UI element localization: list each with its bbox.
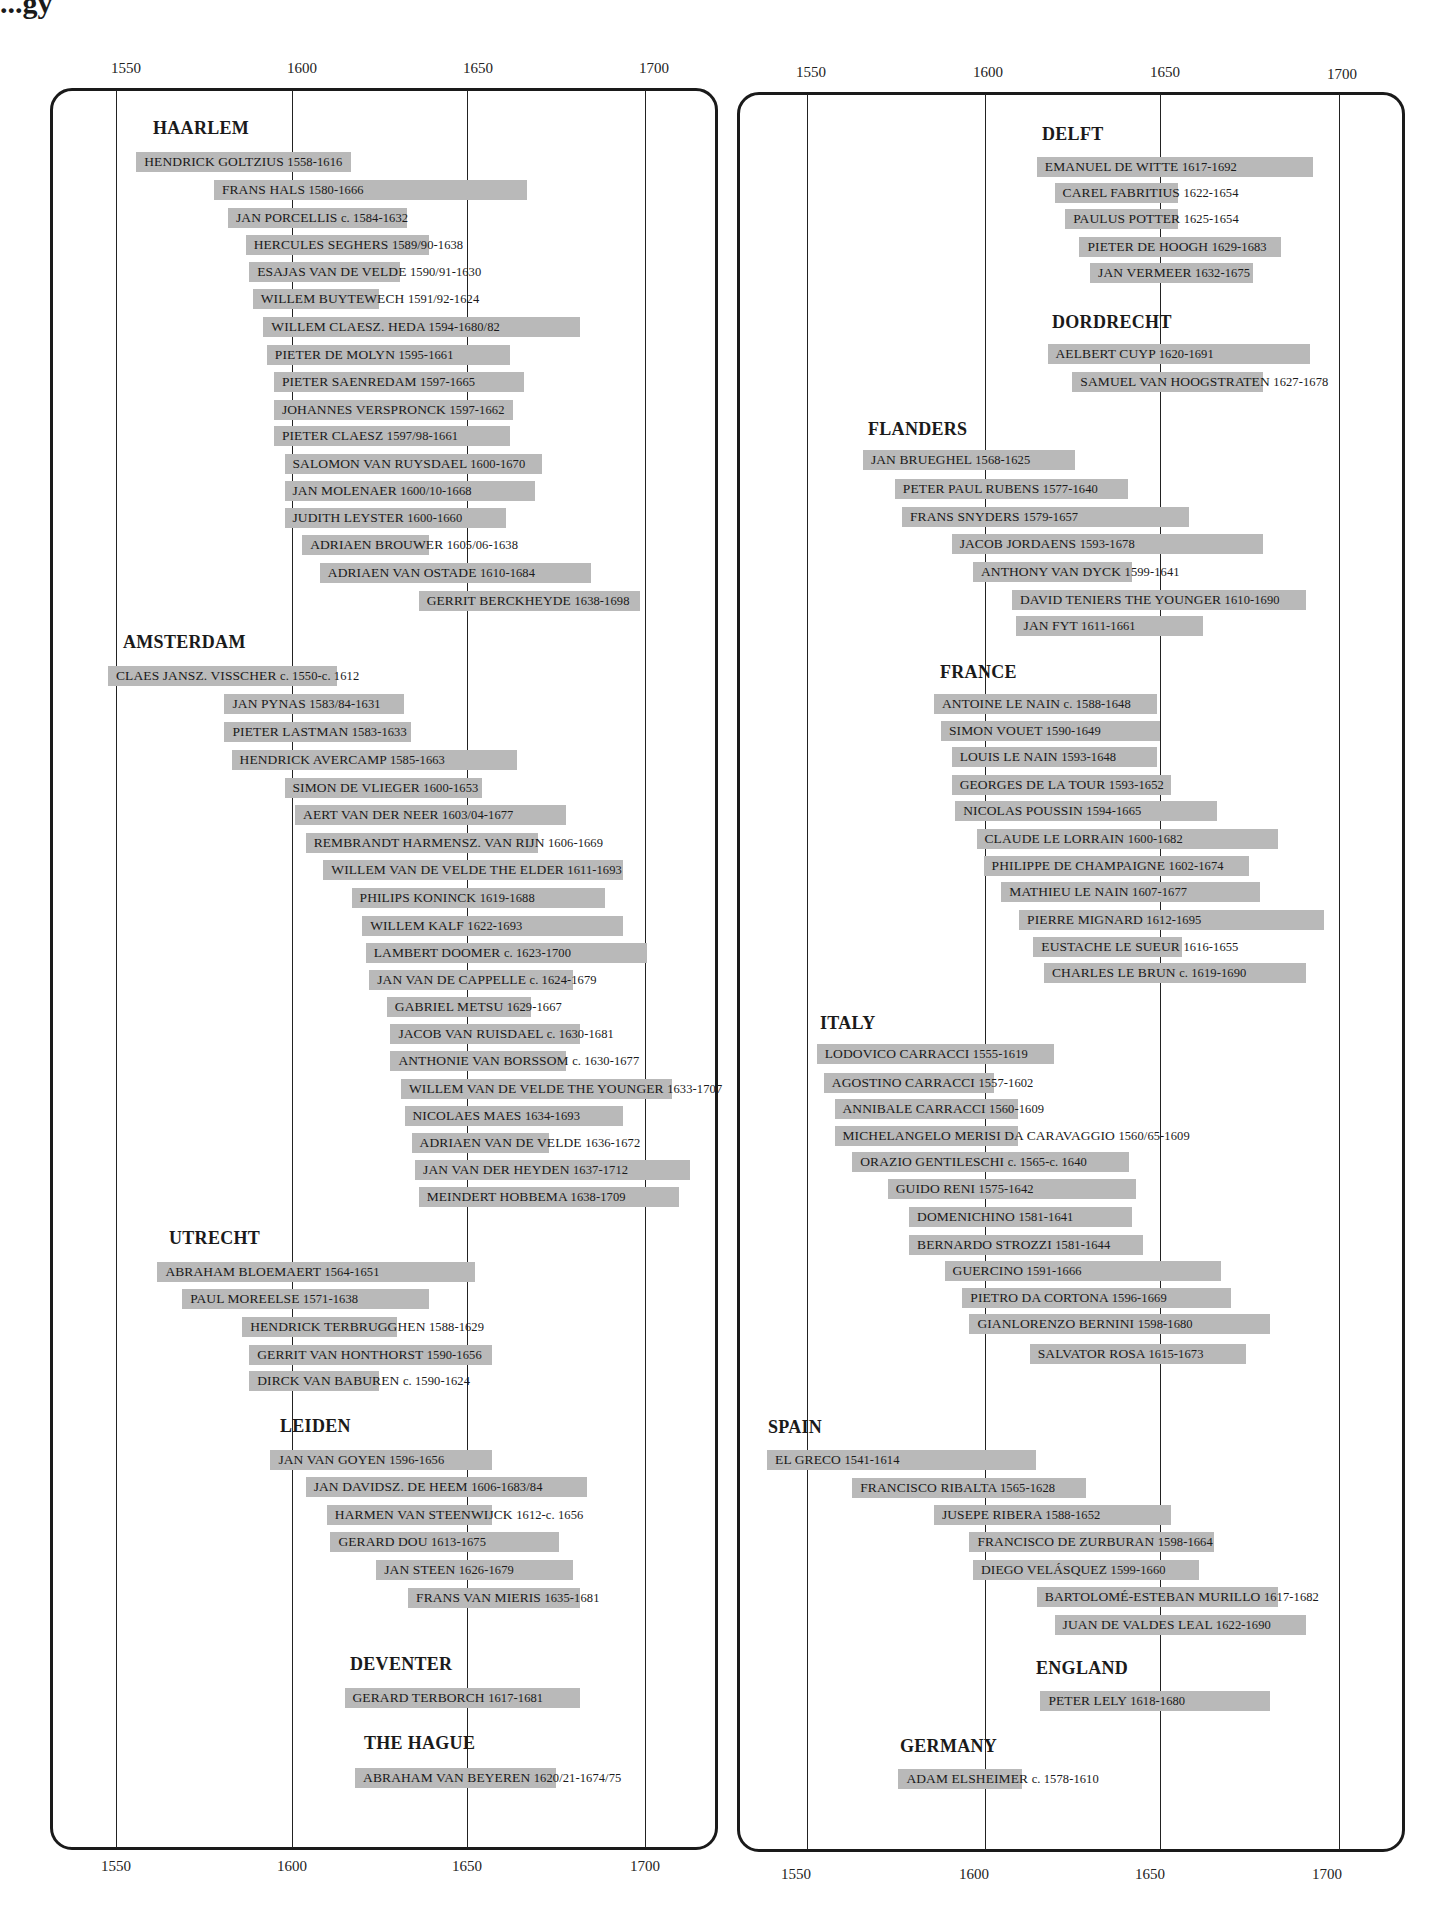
painter-label: FRANS SNYDERS 1579-1657 — [910, 507, 1078, 527]
painter-label: LAMBERT DOOMER c. 1623-1700 — [374, 943, 571, 963]
painter-dates: 1580-1666 — [309, 183, 364, 197]
painter-dates: 1591-1666 — [1027, 1264, 1082, 1278]
painter-dates: 1594-1680/82 — [429, 320, 500, 334]
painter-name: JAN VAN GOYEN — [278, 1452, 389, 1467]
tick-1700: 1700 — [639, 60, 669, 77]
painter-label: JAN DAVIDSZ. DE HEEM 1606-1683/84 — [314, 1477, 543, 1497]
school-heading: DORDRECHT — [1052, 312, 1172, 333]
painter-name: PIETER SAENREDAM — [282, 374, 420, 389]
painter-label: ADRIAEN BROUWER 1605/06-1638 — [310, 535, 518, 555]
painter-name: JAN MOLENAER — [293, 483, 401, 498]
painter-name: PHILIPPE DE CHAMPAIGNE — [992, 858, 1169, 873]
painter-label: FRANCISCO RIBALTA 1565-1628 — [860, 1478, 1055, 1498]
painter-dates: c. 1565-c. 1640 — [1008, 1155, 1087, 1169]
painter-name: AELBERT CUYP — [1056, 346, 1159, 361]
painter-dates: 1634-1693 — [525, 1109, 580, 1123]
painter-name: CLAES JANSZ. VISSCHER — [116, 668, 280, 683]
painter-name: PIETER DE HOOGH — [1087, 239, 1211, 254]
painter-dates: 1590-1649 — [1046, 724, 1101, 738]
painter-label: DOMENICHINO 1581-1641 — [917, 1207, 1073, 1227]
painter-name: WILLEM VAN DE VELDE THE ELDER — [331, 862, 567, 877]
tick-1650: 1650 — [452, 1858, 482, 1875]
tick-1650: 1650 — [1150, 64, 1180, 81]
painter-label: CHARLES LE BRUN c. 1619-1690 — [1052, 963, 1246, 983]
painter-label: ORAZIO GENTILESCHI c. 1565-c. 1640 — [860, 1152, 1087, 1172]
painter-name: MATHIEU LE NAIN — [1009, 884, 1132, 899]
painter-label: JUDITH LEYSTER 1600-1660 — [293, 508, 463, 528]
school-heading: HAARLEM — [153, 118, 249, 139]
painter-label: REMBRANDT HARMENSZ. VAN RIJN 1606-1669 — [314, 833, 603, 853]
tick-1600: 1600 — [287, 60, 317, 77]
painter-name: AGOSTINO CARRACCI — [832, 1075, 979, 1090]
school-heading: THE HAGUE — [364, 1733, 475, 1754]
painter-label: JAN VAN DE CAPPELLE c. 1624-1679 — [377, 970, 596, 990]
school-heading: SPAIN — [768, 1417, 822, 1438]
painter-dates: 1600-1660 — [407, 511, 462, 525]
painter-label: JAN STEEN 1626-1679 — [384, 1560, 514, 1580]
painter-name: NICOLAES MAES — [413, 1108, 525, 1123]
painter-dates: 1619-1688 — [480, 891, 535, 905]
painter-label: JAN PORCELLIS c. 1584-1632 — [236, 208, 408, 228]
painter-label: GERRIT BERCKHEYDE 1638-1698 — [427, 591, 630, 611]
painter-dates: 1597/98-1661 — [387, 429, 458, 443]
painter-name: JACOB JORDAENS — [960, 536, 1080, 551]
painter-label: FRANS HALS 1580-1666 — [222, 180, 364, 200]
painter-label: ANNIBALE CARRACCI 1560-1609 — [843, 1099, 1045, 1119]
painter-label: SIMON VOUET 1590-1649 — [949, 721, 1101, 741]
tick-1650: 1650 — [1135, 1866, 1165, 1883]
painter-label: PIETER DE MOLYN 1595-1661 — [275, 345, 454, 365]
painter-label: ANTOINE LE NAIN c. 1588-1648 — [942, 694, 1131, 714]
painter-name: ESAJAS VAN DE VELDE — [257, 264, 410, 279]
painter-dates: 1595-1661 — [398, 348, 453, 362]
painter-dates: 1633-1707 — [667, 1082, 722, 1096]
painter-dates: 1593-1678 — [1080, 537, 1135, 551]
painter-label: EMANUEL DE WITTE 1617-1692 — [1045, 157, 1237, 177]
painter-dates: 1593-1648 — [1061, 750, 1116, 764]
painter-dates: 1594-1665 — [1086, 804, 1141, 818]
painter-label: GEORGES DE LA TOUR 1593-1652 — [960, 775, 1164, 795]
painter-dates: c. 1623-1700 — [504, 946, 571, 960]
painter-label: JACOB VAN RUISDAEL c. 1630-1681 — [398, 1024, 613, 1044]
painter-label: GUERCINO 1591-1666 — [953, 1261, 1082, 1281]
painter-label: AELBERT CUYP 1620-1691 — [1056, 344, 1214, 364]
school-heading: DELFT — [1042, 124, 1104, 145]
painter-dates: 1589/90-1638 — [392, 238, 463, 252]
painter-name: NICOLAS POUSSIN — [963, 803, 1086, 818]
tick-1700: 1700 — [630, 1858, 660, 1875]
painter-dates: 1622-1693 — [467, 919, 522, 933]
painter-dates: 1620/21-1674/75 — [534, 1771, 622, 1785]
painter-name: LOUIS LE NAIN — [960, 749, 1062, 764]
painter-label: FRANS VAN MIERIS 1635-1681 — [416, 1588, 599, 1608]
painter-label: PETER LELY 1618-1680 — [1048, 1691, 1185, 1711]
painter-label: FRANCISCO DE ZURBURAN 1598-1664 — [977, 1532, 1212, 1552]
painter-label: PIETER CLAESZ 1597/98-1661 — [282, 426, 458, 446]
tick-1700: 1700 — [1312, 1866, 1342, 1883]
painter-name: SIMON VOUET — [949, 723, 1046, 738]
painter-dates: 1611-1693 — [567, 863, 622, 877]
painter-label: CAREL FABRITIUS 1622-1654 — [1063, 183, 1239, 203]
painter-name: PIETER CLAESZ — [282, 428, 387, 443]
painter-name: SAMUEL VAN HOOGSTRATEN — [1080, 374, 1273, 389]
painter-label: ANTHONIE VAN BORSSOM c. 1630-1677 — [398, 1051, 639, 1071]
painter-label: ABRAHAM BLOEMAERT 1564-1651 — [165, 1262, 379, 1282]
painter-name: WILLEM CLAESZ. HEDA — [271, 319, 428, 334]
painter-label: SAMUEL VAN HOOGSTRATEN 1627-1678 — [1080, 372, 1328, 392]
painter-dates: 1622-1654 — [1183, 186, 1238, 200]
painter-dates: 1597-1665 — [420, 375, 475, 389]
painter-label: ADRIAEN VAN DE VELDE 1636-1672 — [420, 1133, 641, 1153]
painter-label: BERNARDO STROZZI 1581-1644 — [917, 1235, 1110, 1255]
painter-label: PHILIPPE DE CHAMPAIGNE 1602-1674 — [992, 856, 1224, 876]
painter-dates: 1636-1672 — [585, 1136, 640, 1150]
painter-name: ADRIAEN VAN OSTADE — [328, 565, 480, 580]
painter-dates: 1615-1673 — [1148, 1347, 1203, 1361]
painter-dates: 1635-1681 — [544, 1591, 599, 1605]
painter-name: GERARD DOU — [338, 1534, 431, 1549]
painter-name: GUERCINO — [953, 1263, 1027, 1278]
painter-dates: 1610-1690 — [1225, 593, 1280, 607]
painter-dates: 1591/92-1624 — [408, 292, 479, 306]
painter-dates: 1598-1680 — [1138, 1317, 1193, 1331]
painter-label: JUAN DE VALDES LEAL 1622-1690 — [1063, 1615, 1271, 1635]
painter-name: PAULUS POTTER — [1073, 211, 1183, 226]
painter-dates: 1599-1660 — [1111, 1563, 1166, 1577]
painter-name: GERRIT VAN HONTHORST — [257, 1347, 427, 1362]
